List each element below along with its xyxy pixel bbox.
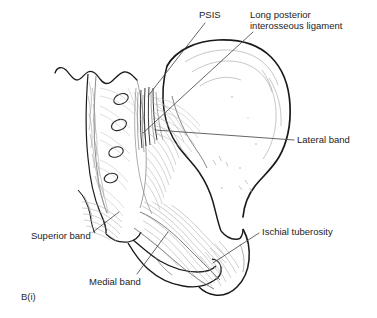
iliac-crest-outline [167,40,290,217]
long-posterior-sacroiliac-ligament [135,87,186,214]
anatomical-illustration [0,0,377,318]
lpsl-fan-fibers [145,96,186,210]
label-superior-band: Superior band [31,230,91,241]
gluteal-surface-contours [185,50,281,159]
leader-long-posterior [143,32,253,133]
sacral-apex-tubercle [78,190,95,233]
label-ischial-tuberosity: Ischial tuberosity [262,226,333,237]
sacrotuberous-ligament [134,194,239,289]
leader-psis [148,23,205,96]
ilium-anterior-border [163,66,199,172]
coccyx [128,240,221,287]
greater-sciatic-notch [199,172,221,231]
leader-ischial-tuberosity [213,233,259,263]
label-long-posterior-interosseous-ligament: Long posteriorinterosseous ligament [250,9,342,31]
sacrum [55,68,146,243]
sacral-crest-texture [88,82,108,214]
label-long-posterior-line1: Long posterior [250,9,311,20]
ischial-spine [221,229,243,239]
label-long-posterior-line2: interosseous ligament [250,20,342,31]
figure-panel-label: B(i) [21,291,36,302]
ilium [155,40,290,239]
label-psis: PSIS [199,9,221,20]
label-lateral-band: Lateral band [297,134,350,145]
label-medial-band: Medial band [89,276,141,287]
sacral-foramen-1 [112,91,130,106]
ilium-surface-marks [221,96,256,188]
sacral-foramen-4 [103,172,118,184]
ischial-tuberosity-inner-line [240,244,244,272]
ilium-surface-dashes [213,156,252,192]
sacrotuberous-fibers [134,194,227,289]
sacral-foramen-3 [107,145,124,159]
sacral-foramen-2 [110,117,128,132]
